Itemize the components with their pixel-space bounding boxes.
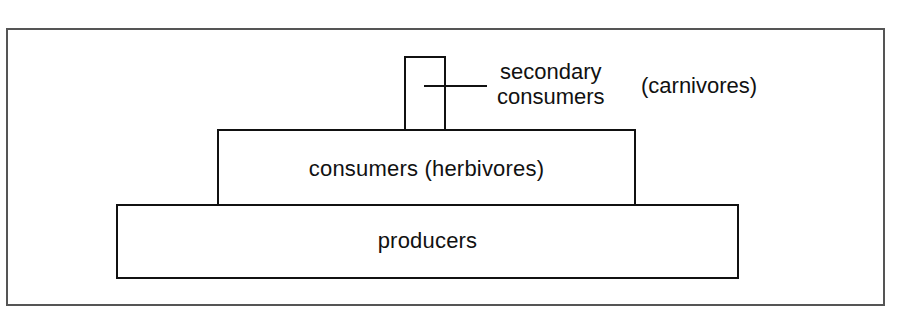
secondary-consumers-label-line2: consumers (497, 84, 605, 109)
consumers-label: consumers (herbivores) (309, 156, 544, 182)
producers-level: producers (116, 204, 739, 279)
producers-label: producers (378, 228, 478, 254)
carnivores-annotation: (carnivores) (641, 73, 757, 99)
secondary-consumers-label: secondary consumers (497, 59, 605, 109)
consumers-level: consumers (herbivores) (217, 129, 636, 206)
label-leader-line (424, 85, 487, 87)
secondary-consumers-label-line1: secondary (497, 59, 605, 84)
secondary-consumers-level (404, 56, 446, 131)
